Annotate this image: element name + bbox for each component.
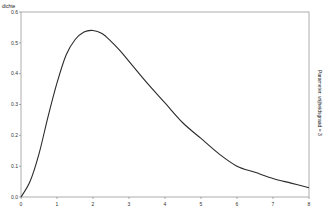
y-tick-label: 0.6 xyxy=(11,9,18,15)
x-tick-label: 1 xyxy=(56,201,59,207)
density-chart: 0123456780.00.10.20.30.40.50.6 dichte Pa… xyxy=(0,0,327,214)
axes: 0123456780.00.10.20.30.40.50.6 xyxy=(11,9,311,207)
y-tick-label: 0.2 xyxy=(11,132,18,138)
y-tick-label: 0.5 xyxy=(11,40,18,46)
y-tick-label: 0.3 xyxy=(11,101,18,107)
y-axis-title: dichte xyxy=(2,3,16,9)
y-tick-label: 0.0 xyxy=(11,194,18,200)
x-tick-label: 7 xyxy=(272,201,275,207)
parameter-label: Parameter: vrijheidsgraad = 3 xyxy=(317,70,323,136)
plot-area: 0123456780.00.10.20.30.40.50.6 dichte Pa… xyxy=(0,0,327,214)
x-tick-label: 2 xyxy=(92,201,95,207)
y-tick-label: 0.1 xyxy=(11,163,18,169)
y-tick-label: 0.4 xyxy=(11,70,18,76)
x-tick-label: 8 xyxy=(308,201,311,207)
x-tick-label: 0 xyxy=(20,201,23,207)
plot-frame xyxy=(21,12,309,197)
x-tick-label: 6 xyxy=(236,201,239,207)
x-tick-label: 4 xyxy=(164,201,167,207)
x-tick-label: 5 xyxy=(200,201,203,207)
density-curve xyxy=(21,30,309,197)
x-tick-label: 3 xyxy=(128,201,131,207)
